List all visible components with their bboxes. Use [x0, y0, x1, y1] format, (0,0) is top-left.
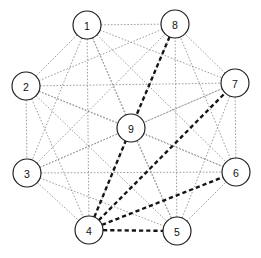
edge-3-6: [41, 172, 222, 173]
graph-diagram: 123456789: [0, 0, 261, 258]
edge-2-8: [39, 29, 162, 80]
node-label-8: 8: [172, 19, 178, 31]
edge-2-3: [26, 100, 27, 159]
edge-3-8: [37, 34, 165, 163]
edge-1-8: [101, 24, 161, 25]
node-label-5: 5: [174, 226, 180, 238]
edge-1-4: [87, 39, 89, 216]
node-6[interactable]: 6: [222, 158, 250, 186]
node-7[interactable]: 7: [221, 69, 249, 97]
node-5[interactable]: 5: [163, 217, 191, 245]
edge-6-7: [235, 97, 236, 158]
edge-6-8: [180, 37, 230, 159]
edge-layer-highlight: [94, 37, 225, 231]
node-label-4: 4: [86, 225, 92, 237]
edge-2-7: [40, 83, 221, 86]
node-label-3: 3: [24, 168, 30, 180]
edge-4-5: [103, 230, 163, 231]
edge-5-7: [182, 96, 230, 218]
node-label-9: 9: [128, 123, 134, 135]
edge-1-7: [100, 30, 222, 78]
node-label-2: 2: [23, 81, 29, 93]
node-9[interactable]: 9: [117, 114, 145, 142]
edge-3-9: [40, 134, 118, 168]
edge-5-8: [175, 38, 177, 217]
node-1[interactable]: 1: [73, 11, 101, 39]
node-4[interactable]: 4: [75, 216, 103, 244]
edge-1-2: [36, 35, 77, 76]
node-2[interactable]: 2: [12, 72, 40, 100]
node-label-1: 1: [84, 20, 90, 32]
node-label-6: 6: [233, 167, 239, 179]
edge-4-6: [102, 177, 223, 225]
edge-1-6: [97, 35, 226, 162]
edge-3-5: [40, 178, 164, 226]
edge-7-8: [185, 34, 225, 73]
node-layer: 123456789: [12, 10, 250, 245]
graph-canvas: 123456789: [0, 0, 261, 258]
edge-2-9: [39, 91, 118, 123]
edge-3-4: [37, 182, 78, 220]
node-8[interactable]: 8: [161, 10, 189, 38]
node-label-7: 7: [232, 78, 238, 90]
edge-5-6: [187, 182, 226, 221]
node-3[interactable]: 3: [13, 159, 41, 187]
edge-1-9: [93, 38, 126, 115]
